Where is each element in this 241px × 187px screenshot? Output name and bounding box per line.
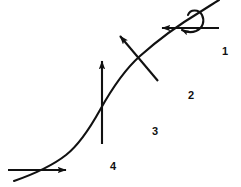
- vector-middle-diagonal: [120, 36, 158, 81]
- region-label-3: 3: [152, 126, 158, 137]
- region-label-2: 2: [188, 90, 194, 101]
- diagram-svg: [0, 0, 241, 187]
- region-label-4: 4: [110, 161, 116, 172]
- diagram-canvas: 1 2 3 4: [0, 0, 241, 187]
- region-label-1: 1: [222, 46, 228, 57]
